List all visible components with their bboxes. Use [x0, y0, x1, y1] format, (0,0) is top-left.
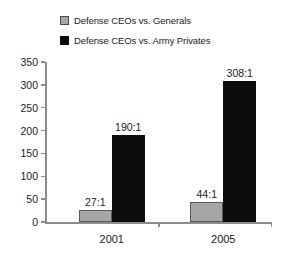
y-axis-tick — [41, 153, 45, 155]
black-square-swatch-icon — [60, 36, 69, 45]
y-axis-tick — [41, 176, 45, 178]
bar-value-label: 44:1 — [197, 189, 217, 200]
chart-legend: Defense CEOs vs. Generals Defense CEOs v… — [60, 12, 210, 52]
y-axis-tick — [41, 61, 45, 63]
legend-label-generals: Defense CEOs vs. Generals — [74, 15, 191, 26]
x-axis-tick-end — [271, 222, 273, 227]
plot-area: 350300250200150100500 27:1190:144:1308:1… — [45, 62, 272, 222]
x-axis-tick-separator — [158, 222, 160, 227]
y-axis-tick-label: 300 — [20, 80, 38, 91]
legend-label-army-privates: Defense CEOs vs. Army Privates — [74, 35, 210, 46]
y-axis-tick — [41, 198, 45, 200]
bar: 308:1 — [223, 81, 256, 222]
bar: 27:1 — [79, 210, 112, 222]
x-axis-category-label: 2001 — [100, 234, 124, 245]
y-axis-tick — [41, 107, 45, 109]
y-axis-line — [45, 62, 47, 222]
y-axis-tick-label: 150 — [20, 148, 38, 159]
y-axis-tick-label: 250 — [20, 102, 38, 113]
y-axis-tick-label: 350 — [20, 57, 38, 68]
bar: 190:1 — [112, 135, 145, 222]
legend-item-generals: Defense CEOs vs. Generals — [60, 12, 210, 28]
gray-square-swatch-icon — [60, 16, 69, 25]
bar-value-label: 27:1 — [85, 197, 105, 208]
bar-value-label: 308:1 — [227, 68, 253, 79]
bar: 44:1 — [190, 202, 223, 222]
y-axis-tick-label: 200 — [20, 125, 38, 136]
legend-item-army-privates: Defense CEOs vs. Army Privates — [60, 32, 210, 48]
y-axis-tick-label: 0 — [32, 217, 38, 228]
y-axis-tick-label: 50 — [26, 194, 38, 205]
x-axis-category-label: 2005 — [211, 234, 235, 245]
y-axis-tick-label: 100 — [20, 171, 38, 182]
bar-value-label: 190:1 — [115, 122, 141, 133]
y-axis-tick — [41, 84, 45, 86]
bar-chart: Defense CEOs vs. Generals Defense CEOs v… — [0, 0, 285, 268]
y-axis-tick — [41, 221, 45, 223]
y-axis-tick — [41, 130, 45, 132]
